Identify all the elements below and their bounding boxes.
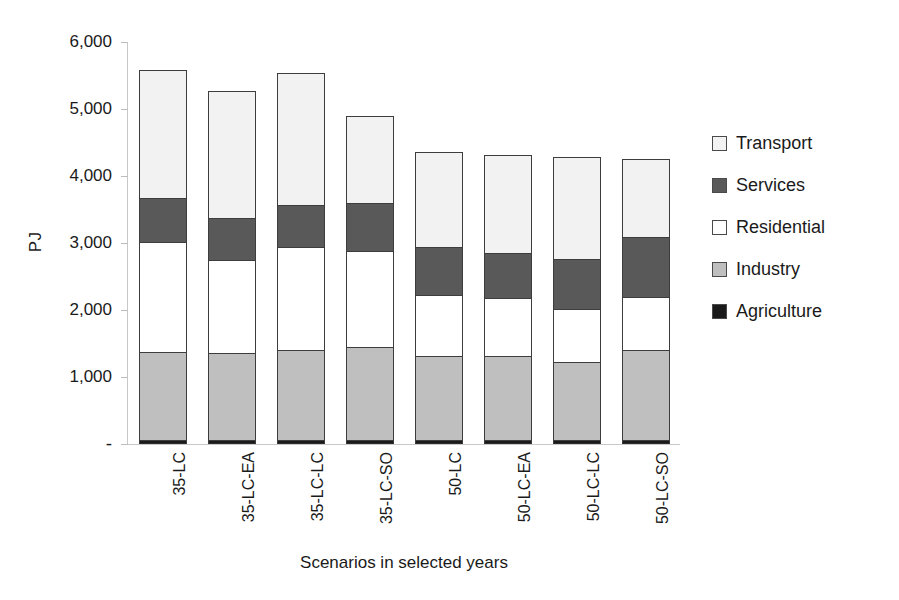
y-axis-tick-label: 5,000 — [32, 99, 112, 119]
y-axis-tick: 6,000 — [121, 42, 128, 43]
legend-label: Services — [736, 175, 805, 196]
stacked-bar-chart: PJ -1,0002,0003,0004,0005,0006,000 35-LC… — [0, 0, 899, 600]
bar-segment-services[interactable] — [208, 218, 256, 260]
bar-segment-transport[interactable] — [277, 73, 325, 205]
bar-segment-services[interactable] — [346, 203, 394, 251]
bar-segment-residential[interactable] — [139, 242, 187, 352]
x-axis-category-label: 35-LC-SO — [378, 452, 396, 524]
x-axis-category-label: 50-LC-LC — [585, 452, 603, 521]
legend-item[interactable]: Residential — [712, 217, 825, 238]
y-axis-tick-label: 6,000 — [32, 32, 112, 52]
bar-segment-transport[interactable] — [415, 152, 463, 247]
bar-segment-agriculture[interactable] — [415, 440, 463, 444]
bar-segment-services[interactable] — [139, 198, 187, 242]
bar-segment-transport[interactable] — [553, 157, 601, 259]
x-axis-category-label: 50-LC-EA — [516, 452, 534, 522]
bar-segment-transport[interactable] — [208, 91, 256, 218]
x-axis-category-label: 35-LC — [171, 452, 189, 496]
bar-segment-industry[interactable] — [208, 353, 256, 440]
y-axis-tick-label: - — [32, 433, 112, 455]
x-axis-category-label: 50-LC-SO — [654, 452, 672, 524]
y-axis-tick: - — [121, 444, 128, 445]
legend-swatch-icon — [712, 304, 727, 319]
legend-swatch-icon — [712, 136, 727, 151]
x-axis-line — [127, 444, 680, 445]
y-axis-tick: 4,000 — [121, 176, 128, 177]
bar-segment-agriculture[interactable] — [484, 440, 532, 444]
bar-segment-agriculture[interactable] — [346, 440, 394, 444]
y-axis-tick: 3,000 — [121, 243, 128, 244]
bar-segment-industry[interactable] — [277, 350, 325, 440]
legend: TransportServicesResidentialIndustryAgri… — [712, 133, 825, 322]
bar-segment-transport[interactable] — [139, 70, 187, 198]
bar-segment-residential[interactable] — [622, 297, 670, 350]
bar-segment-residential[interactable] — [346, 251, 394, 347]
legend-swatch-icon — [712, 220, 727, 235]
bar-segment-agriculture[interactable] — [277, 440, 325, 444]
y-axis-tick-label: 3,000 — [32, 233, 112, 253]
bar-segment-residential[interactable] — [553, 309, 601, 363]
y-axis-tick: 5,000 — [121, 109, 128, 110]
bar-segment-agriculture[interactable] — [553, 440, 601, 444]
plot-area: -1,0002,0003,0004,0005,0006,000 — [128, 42, 680, 444]
legend-item[interactable]: Services — [712, 175, 825, 196]
bar-segment-residential[interactable] — [277, 247, 325, 350]
bar-segment-industry[interactable] — [346, 347, 394, 440]
y-axis-tick: 2,000 — [121, 310, 128, 311]
bar-segment-transport[interactable] — [622, 159, 670, 236]
bar-segment-industry[interactable] — [553, 362, 601, 440]
bar-segment-agriculture[interactable] — [139, 440, 187, 444]
x-axis-title: Scenarios in selected years — [128, 553, 680, 573]
legend-label: Industry — [736, 259, 800, 280]
bar-series-group — [128, 42, 680, 444]
y-axis-tick-label: 2,000 — [32, 300, 112, 320]
bar-segment-services[interactable] — [277, 205, 325, 247]
bar-segment-services[interactable] — [553, 259, 601, 309]
bar-segment-residential[interactable] — [208, 260, 256, 353]
y-axis-tick-label: 1,000 — [32, 367, 112, 387]
x-axis-category-label: 35-LC-LC — [309, 452, 327, 521]
legend-label: Agriculture — [736, 301, 822, 322]
bar-segment-industry[interactable] — [139, 352, 187, 440]
legend-item[interactable]: Industry — [712, 259, 825, 280]
bar-segment-residential[interactable] — [415, 295, 463, 356]
bar-segment-industry[interactable] — [415, 356, 463, 440]
legend-label: Transport — [736, 133, 812, 154]
legend-swatch-icon — [712, 262, 727, 277]
legend-label: Residential — [736, 217, 825, 238]
legend-swatch-icon — [712, 178, 727, 193]
bar-segment-industry[interactable] — [484, 356, 532, 440]
bar-segment-residential[interactable] — [484, 298, 532, 356]
y-axis-tick-label: 4,000 — [32, 166, 112, 186]
bar-segment-transport[interactable] — [346, 116, 394, 202]
x-axis-category-label: 50-LC — [447, 452, 465, 496]
bar-segment-services[interactable] — [484, 253, 532, 298]
legend-item[interactable]: Transport — [712, 133, 825, 154]
bar-segment-services[interactable] — [415, 247, 463, 295]
legend-item[interactable]: Agriculture — [712, 301, 825, 322]
bar-segment-agriculture[interactable] — [208, 440, 256, 444]
x-axis-category-label: 35-LC-EA — [240, 452, 258, 522]
bar-segment-services[interactable] — [622, 237, 670, 297]
bar-segment-industry[interactable] — [622, 350, 670, 441]
bar-segment-agriculture[interactable] — [622, 440, 670, 444]
y-axis-tick: 1,000 — [121, 377, 128, 378]
bar-segment-transport[interactable] — [484, 155, 532, 253]
